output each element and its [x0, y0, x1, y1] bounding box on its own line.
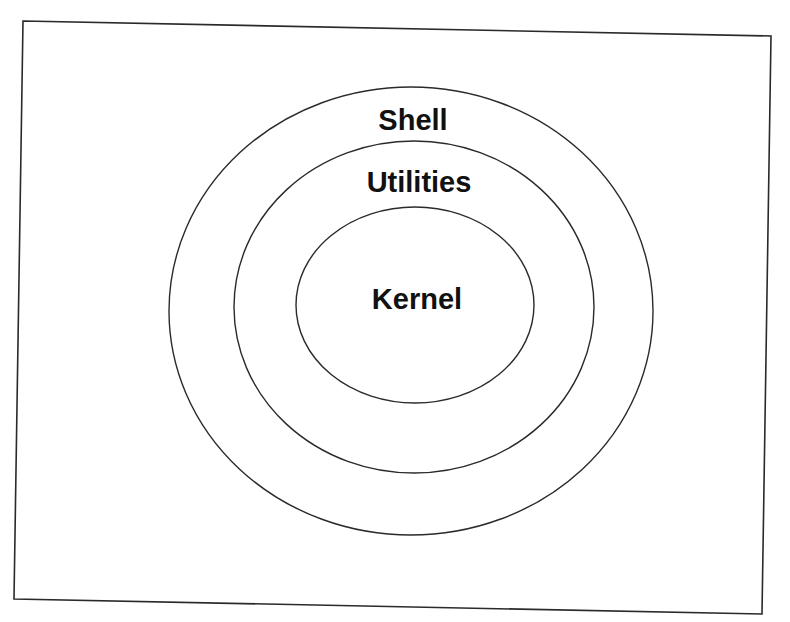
layer-diagram: Shell Utilities Kernel [0, 0, 790, 622]
shell-label: Shell [378, 104, 447, 136]
utilities-label: Utilities [367, 166, 472, 198]
kernel-label: Kernel [372, 283, 462, 315]
diagram-canvas: Shell Utilities Kernel [0, 0, 790, 622]
